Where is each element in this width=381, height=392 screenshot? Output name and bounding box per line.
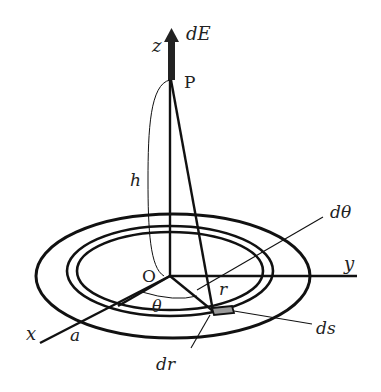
label-y-axis: y [343, 253, 355, 274]
theta-arc [142, 292, 197, 298]
area-element-ds [212, 306, 234, 315]
de-vector-shaft [168, 36, 175, 80]
ds-leader [234, 311, 312, 324]
label-x-axis: x [26, 323, 36, 344]
label-dr: dr [156, 354, 176, 374]
de-vector-arrowhead [164, 28, 179, 42]
label-dtheta: dθ [330, 202, 351, 222]
label-de: dE [186, 23, 211, 44]
height-brace [148, 80, 170, 276]
label-ds: ds [316, 318, 336, 338]
label-z-axis: z [151, 35, 162, 56]
label-origin-o: O [142, 266, 156, 286]
label-r: r [219, 279, 228, 299]
label-point-p: P [184, 72, 195, 92]
charged-disk-field-diagram: z dE P h dθ y O r θ ds x a dr [0, 0, 381, 392]
label-h: h [130, 170, 141, 190]
dr-leader [191, 315, 210, 348]
label-theta: θ [152, 297, 162, 316]
label-a: a [70, 325, 80, 345]
